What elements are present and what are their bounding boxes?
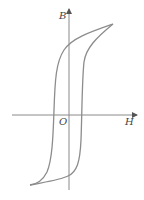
descending-branch	[30, 24, 113, 185]
b-axis-label: B	[58, 10, 66, 21]
h-axis-label: H	[124, 116, 134, 127]
origin-label: O	[59, 116, 67, 127]
ascending-branch	[30, 24, 113, 185]
hysteresis-diagram: B H O	[0, 0, 144, 200]
